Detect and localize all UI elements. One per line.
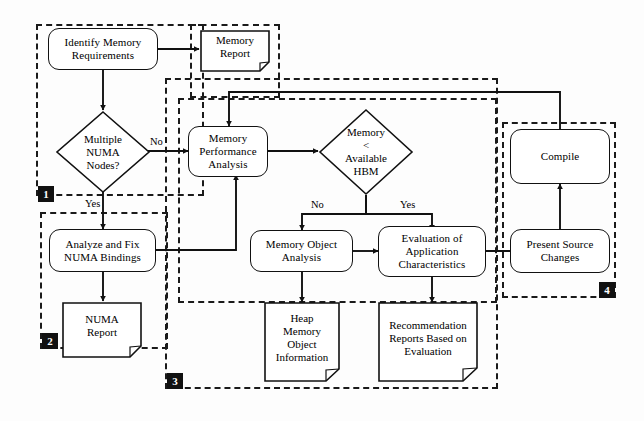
node-label: Compile <box>537 150 584 163</box>
node-label: Identify Memory Requirements <box>61 36 146 62</box>
node-memory-report[interactable]: Memory Report <box>200 30 270 72</box>
node-label: Recommendation Reports Based on Evaluati… <box>378 302 478 382</box>
node-label: Memory Performance Analysis <box>195 132 260 171</box>
flowchart-canvas: 1 2 3 4 <box>0 0 644 421</box>
node-label: Evaluation of Application Characteristic… <box>395 232 470 271</box>
node-analyze-fix-numa-bindings[interactable]: Analyze and Fix NUMA Bindings <box>49 229 156 272</box>
group-3-badge: 3 <box>167 373 183 389</box>
node-label: Present Source Changes <box>522 238 597 264</box>
node-label: Analyze and Fix NUMA Bindings <box>60 238 145 264</box>
group-2-badge: 2 <box>42 333 58 349</box>
node-recommendation-reports[interactable]: Recommendation Reports Based on Evaluati… <box>378 302 478 382</box>
edge-label-numa-no: No <box>150 136 163 147</box>
node-label: Memory Object Analysis <box>262 238 341 264</box>
node-present-source-changes[interactable]: Present Source Changes <box>510 229 610 273</box>
node-memory-lt-available-hbm[interactable]: Memory < Available HBM <box>318 108 414 196</box>
node-label: Memory < Available HBM <box>318 108 414 196</box>
node-label: Heap Memory Object Information <box>264 302 340 382</box>
node-heap-memory-object-information[interactable]: Heap Memory Object Information <box>264 302 340 382</box>
node-identify-memory-requirements[interactable]: Identify Memory Requirements <box>48 28 158 70</box>
group-1-badge: 1 <box>38 186 54 202</box>
node-numa-report[interactable]: NUMA Report <box>62 302 142 358</box>
node-evaluation-of-application-characteristics[interactable]: Evaluation of Application Characteristic… <box>378 226 486 277</box>
node-label: NUMA Report <box>62 302 142 358</box>
node-memory-object-analysis[interactable]: Memory Object Analysis <box>250 230 353 272</box>
node-memory-performance-analysis[interactable]: Memory Performance Analysis <box>188 126 268 177</box>
node-label: Memory Report <box>200 30 270 72</box>
node-compile[interactable]: Compile <box>510 129 610 184</box>
group-4-badge: 4 <box>599 282 615 298</box>
node-label: Multiple NUMA Nodes? <box>55 110 151 194</box>
node-multiple-numa-nodes[interactable]: Multiple NUMA Nodes? <box>55 110 151 194</box>
edge-label-numa-yes: Yes <box>85 198 100 209</box>
edge-label-hbm-no: No <box>311 199 324 210</box>
edge-label-hbm-yes: Yes <box>400 199 415 210</box>
